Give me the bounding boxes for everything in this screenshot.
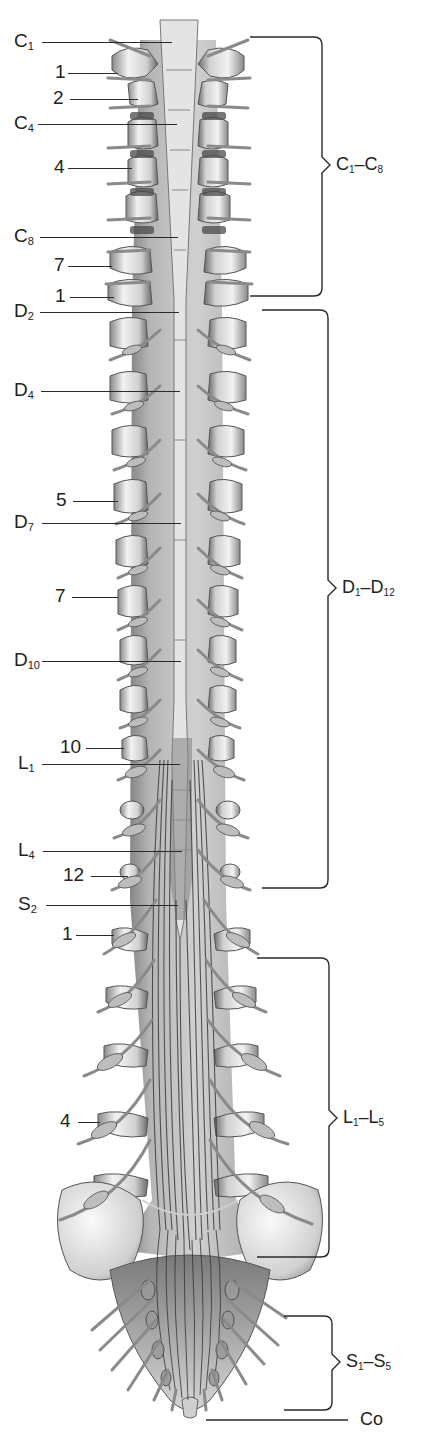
spinal-cord-diagram: C112C44C871D2D45D77D1010L1L412S214 C1–C8… bbox=[0, 0, 427, 1440]
region-label-thoracic: D1–D12 bbox=[342, 578, 395, 598]
leader-line-v1c bbox=[76, 935, 114, 936]
leader-line-v10 bbox=[86, 748, 124, 749]
label-v2: 2 bbox=[53, 88, 64, 107]
leader-line-S2 bbox=[46, 905, 178, 906]
leader-line-v4b bbox=[78, 1122, 100, 1123]
label-v10: 10 bbox=[60, 737, 81, 756]
label-D2: D2 bbox=[14, 301, 34, 322]
region-label-coccygeal: Co bbox=[360, 1410, 383, 1428]
label-C1: C1 bbox=[14, 31, 34, 52]
leader-line-v5 bbox=[73, 501, 118, 502]
leader-line-v2 bbox=[70, 99, 138, 100]
leader-line-C4 bbox=[38, 124, 177, 125]
label-C4: C4 bbox=[14, 113, 34, 134]
leader-line-D2 bbox=[40, 312, 179, 313]
label-v7b: 7 bbox=[55, 586, 66, 605]
spine-illustration bbox=[0, 0, 427, 1440]
leader-line-v1b bbox=[70, 297, 114, 298]
label-L4: L4 bbox=[18, 840, 35, 861]
label-S2: S2 bbox=[18, 894, 37, 915]
leader-line-D10 bbox=[42, 661, 181, 662]
region-label-sacral: S1–S5 bbox=[346, 1352, 391, 1372]
leader-line-L4 bbox=[43, 851, 182, 852]
leader-line-v7b bbox=[72, 597, 118, 598]
leader-line-v7a bbox=[68, 266, 112, 267]
leader-line-v1 bbox=[68, 73, 118, 74]
bracket-sacral bbox=[284, 1316, 340, 1410]
label-v5: 5 bbox=[56, 490, 67, 509]
label-L1: L1 bbox=[18, 753, 35, 774]
leader-line-D7 bbox=[42, 523, 181, 524]
leader-line-C8 bbox=[40, 237, 178, 238]
bracket-cervical bbox=[250, 37, 330, 296]
region-label-cervical: C1–C8 bbox=[336, 155, 383, 175]
label-v7a: 7 bbox=[54, 255, 65, 274]
leader-line-C1 bbox=[42, 42, 172, 43]
label-D10: D10 bbox=[14, 650, 40, 671]
label-v4b: 4 bbox=[60, 1111, 71, 1130]
leader-line-D4 bbox=[41, 391, 180, 392]
leader-line-v12 bbox=[91, 876, 128, 877]
label-v1: 1 bbox=[55, 62, 66, 81]
label-v1b: 1 bbox=[55, 286, 66, 305]
label-D7: D7 bbox=[14, 512, 34, 533]
label-v12: 12 bbox=[63, 865, 84, 884]
label-C8: C8 bbox=[14, 226, 34, 247]
leader-line-v4 bbox=[68, 168, 132, 169]
bracket-thoracic bbox=[262, 310, 336, 888]
label-v1c: 1 bbox=[62, 924, 73, 943]
region-label-lumbar: L1–L5 bbox=[343, 1108, 384, 1128]
label-v4: 4 bbox=[54, 157, 65, 176]
label-D4: D4 bbox=[14, 380, 34, 401]
leader-line-L1 bbox=[42, 764, 180, 765]
